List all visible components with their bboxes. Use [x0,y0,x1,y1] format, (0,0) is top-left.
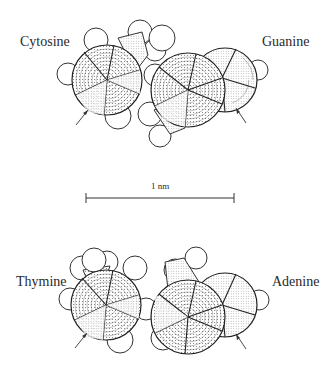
adenine-label: Adenine [272,274,319,290]
guanine-label: Guanine [262,34,309,50]
adenine-model [151,247,269,354]
thymine-model [59,248,157,353]
thymine-label: Thymine [16,274,67,290]
scale-bar [86,193,234,203]
guanine-model [138,25,268,147]
cytosine-label: Cytosine [20,34,70,50]
scale-bar-label: 1 nm [151,181,169,191]
